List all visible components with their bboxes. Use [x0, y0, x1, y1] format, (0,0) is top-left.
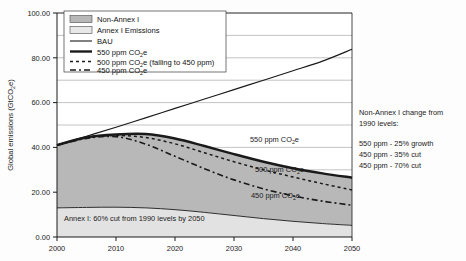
- side-note-heading-line2: 1990 levels:: [359, 119, 398, 128]
- side-note-row-1: 450 ppm - 35% cut: [359, 150, 421, 159]
- x-tick-label: 2050: [344, 244, 360, 253]
- legend-swatch-non-annex: [70, 16, 92, 23]
- x-tick-label: 2020: [167, 244, 183, 253]
- y-tick-label: 0.00: [36, 233, 50, 242]
- annotation-label-550: 550 ppm CO2e: [250, 135, 299, 145]
- y-tick-label: 60.00: [32, 98, 51, 107]
- legend-label-annex: Annex I Emissions: [97, 26, 160, 35]
- legend-label-450: 450 ppm CO2e: [97, 66, 147, 76]
- x-tick-label: 2030: [226, 244, 242, 253]
- x-tick-label: 2040: [285, 244, 301, 253]
- legend: Non-Annex I Annex I Emissions BAU 550 pp…: [64, 11, 226, 76]
- annotation-label-450: 450 ppm CO2e: [251, 191, 300, 201]
- x-tick-label: 2000: [49, 244, 65, 253]
- legend-label-non-annex: Non-Annex I: [97, 15, 139, 24]
- annotation-label-500: 500 ppm CO2e: [255, 165, 304, 175]
- legend-swatch-annex: [70, 27, 92, 34]
- y-axis-title: Global emissions (GtCO2e): [6, 79, 16, 171]
- side-note-heading-line1: Non-Annex I change from: [359, 108, 443, 117]
- x-tick-label: 2010: [108, 244, 124, 253]
- annotation-annex-note: Annex I: 60% cut from 1990 levels by 205…: [64, 214, 205, 223]
- side-note-row-0: 550 ppm - 25% growth: [359, 139, 433, 148]
- y-tick-label: 40.00: [32, 143, 51, 152]
- y-tick-label: 80.00: [32, 54, 51, 63]
- chart-svg: 0.0020.0040.0060.0080.00100.00 200020102…: [0, 0, 466, 261]
- legend-label-550: 550 ppm CO2e: [97, 48, 147, 58]
- y-tick-label: 100.00: [27, 9, 50, 18]
- side-note-row-2: 450 ppm - 70% cut: [359, 161, 421, 170]
- legend-label-bau: BAU: [97, 37, 113, 46]
- emissions-pathways-chart: 0.0020.0040.0060.0080.00100.00 200020102…: [0, 0, 466, 261]
- y-tick-label: 20.00: [32, 188, 51, 197]
